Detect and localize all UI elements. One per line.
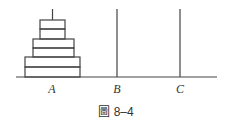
- disk-5: [25, 57, 80, 67]
- disk-6: [25, 67, 80, 77]
- disk-4: [33, 48, 74, 57]
- peg-b-label: B: [113, 82, 120, 97]
- disk-1: [40, 20, 65, 29]
- figure-caption: 圖 8–4: [98, 102, 133, 119]
- disk-3: [33, 39, 74, 48]
- peg-a-label: A: [48, 82, 55, 97]
- disk-2: [40, 29, 65, 39]
- peg-c-label: C: [176, 82, 184, 97]
